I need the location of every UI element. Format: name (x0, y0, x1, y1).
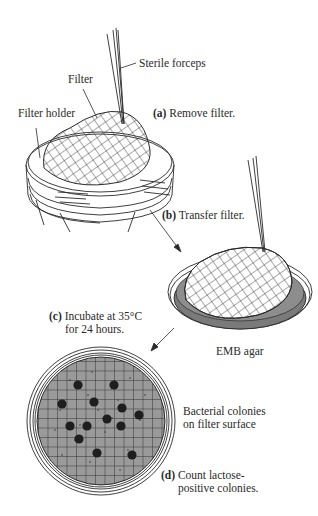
label-filter-holder: Filter holder (18, 107, 75, 120)
step-d-text-line2: positive colonies. (178, 482, 259, 495)
step-a: (a) Remove filter. (153, 107, 235, 120)
arrow-b-to-c (151, 328, 174, 351)
membrane-filtration-diagram (0, 0, 318, 516)
label-bacterial-colonies-1: Bacterial colonies (183, 405, 266, 418)
incubated-dish (27, 347, 180, 500)
colony (134, 410, 143, 419)
filter-membrane (44, 111, 151, 185)
sterile-forceps-icon (107, 28, 124, 124)
step-d-letter: (d) (161, 469, 175, 481)
colony (109, 380, 118, 389)
step-c: (c) Incubate at 35°C (49, 310, 142, 323)
colony (92, 448, 101, 457)
colony (127, 450, 136, 459)
step-c-letter: (c) (49, 310, 62, 322)
label-emb-agar: EMB agar (216, 345, 264, 358)
label-filter: Filter (68, 73, 93, 86)
colony (102, 414, 111, 423)
step-b-letter: (b) (162, 209, 176, 221)
label-sterile-forceps: Sterile forceps (139, 57, 206, 70)
step-b-text: Transfer filter. (179, 209, 245, 221)
forceps-b-icon (248, 156, 265, 252)
step-c-text-line1: Incubate at 35°C (65, 310, 142, 322)
colony (117, 403, 126, 412)
label-bacterial-colonies-2: on filter surface (183, 418, 256, 431)
colony (65, 421, 74, 430)
step-a-text: Remove filter. (169, 107, 235, 119)
step-d-text-line1: Count lactose- (178, 469, 245, 481)
step-b: (b) Transfer filter. (162, 209, 245, 222)
colony (89, 397, 98, 406)
colony (73, 380, 82, 389)
step-a-letter: (a) (153, 107, 166, 119)
colony (74, 434, 83, 443)
colony (82, 421, 91, 430)
colony (57, 399, 66, 408)
step-c-text-line2: for 24 hours. (65, 323, 124, 336)
colony (116, 421, 125, 430)
step-d: (d) Count lactose- (161, 469, 245, 482)
